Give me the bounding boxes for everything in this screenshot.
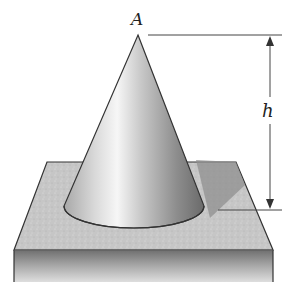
arrow-down-icon xyxy=(266,199,274,209)
height-label: h xyxy=(262,100,274,121)
plate-front-face xyxy=(14,250,273,282)
cone-body xyxy=(64,35,204,228)
arrow-up-icon xyxy=(266,36,274,46)
cone-diagram: A h xyxy=(0,0,300,297)
apex-label: A xyxy=(129,9,143,29)
